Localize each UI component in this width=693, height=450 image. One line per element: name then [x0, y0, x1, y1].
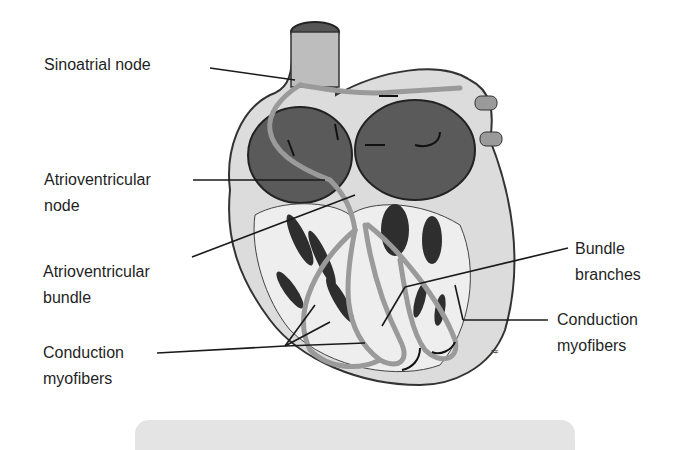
label-text: Bundle	[575, 236, 641, 262]
label-bundle-branches: Bundle branches	[575, 236, 641, 288]
label-atrioventricular-node: Atrioventricular node	[44, 167, 151, 219]
label-text: Conduction	[43, 340, 124, 366]
label-text: Atrioventricular	[43, 259, 150, 285]
pulmonary-vein	[475, 96, 497, 110]
label-text: Sinoatrial node	[44, 52, 151, 78]
label-conduction-myofibers-right: Conduction myofibers	[557, 307, 638, 359]
artist-signature: ≈	[490, 345, 499, 358]
label-text: Conduction	[557, 307, 638, 333]
label-text: myofibers	[43, 366, 124, 392]
label-text: bundle	[43, 285, 150, 311]
label-conduction-myofibers-left: Conduction myofibers	[43, 340, 124, 392]
pulmonary-vein	[480, 132, 502, 146]
label-atrioventricular-bundle: Atrioventricular bundle	[43, 259, 150, 311]
label-text: node	[44, 193, 151, 219]
label-text: branches	[575, 262, 641, 288]
label-text: myofibers	[557, 333, 638, 359]
label-text: Atrioventricular	[44, 167, 151, 193]
left-atrium	[355, 100, 475, 200]
caption-bar	[135, 420, 575, 450]
label-sinoatrial-node: Sinoatrial node	[44, 52, 151, 78]
